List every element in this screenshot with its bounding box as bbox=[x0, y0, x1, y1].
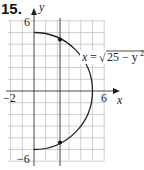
y-axis-label: y bbox=[38, 0, 45, 14]
svg-text:=: = bbox=[90, 50, 97, 64]
svg-text:2: 2 bbox=[140, 49, 144, 58]
x-tick-neg2: −2 bbox=[3, 91, 16, 105]
x-tick-6: 6 bbox=[101, 91, 107, 105]
y-axis-arrow-icon bbox=[31, 8, 37, 15]
y-tick-6: 6 bbox=[24, 15, 30, 29]
x-axis-label: x bbox=[116, 93, 123, 107]
equation-label: x = √ 25 − y 2 bbox=[81, 49, 144, 65]
svg-text:√: √ bbox=[99, 51, 106, 65]
svg-text:x: x bbox=[81, 50, 88, 64]
y-tick-neg6: −6 bbox=[17, 152, 30, 166]
marked-point-bottom bbox=[58, 140, 62, 144]
svg-text:25 − y: 25 − y bbox=[107, 50, 138, 64]
graph: y x 6 −6 −2 6 x = √ 25 − y 2 bbox=[0, 0, 144, 170]
marked-point-top bbox=[58, 38, 62, 42]
